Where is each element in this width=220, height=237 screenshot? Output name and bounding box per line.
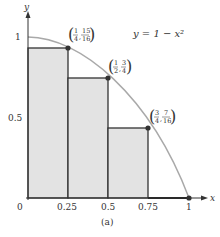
svg-text:): ) [89,25,95,44]
svg-text:,: , [79,33,81,41]
y-axis-label: y [23,2,30,12]
caption: (a) [101,217,113,227]
svg-text:): ) [126,57,132,76]
svg-text:7: 7 [164,109,168,117]
svg-text:3: 3 [155,109,159,117]
svg-text:,: , [119,65,121,73]
point-4 [186,195,191,200]
point-2 [105,75,110,80]
svg-text:1: 1 [114,59,118,67]
x-tick-0: 0 [17,202,23,212]
point-label-3: ( 3 4 , 7 16 ) [149,107,176,126]
y-tick-1: 1 [15,32,21,42]
point-label-1: ( 1 4 , 15 16 ) [68,25,95,44]
point-1 [65,45,70,50]
x-axis-arrow-icon [201,196,208,201]
point-label-2: ( 1 2 , 3 4 ) [108,57,132,76]
equation-label: y = 1 − x² [132,28,184,39]
svg-text:4: 4 [155,117,159,125]
rectangle-1 [28,48,68,198]
x-tick-0.75: 0.75 [138,202,158,212]
x-tick-0.25: 0.25 [57,202,77,212]
riemann-sum-chart: y x 1 0.5 0 0.25 0.5 0.75 1 ( 1 4 , 15 1… [0,0,220,237]
rectangle-3 [108,128,148,198]
svg-text:,: , [160,115,162,123]
svg-text:4: 4 [74,35,78,43]
x-tick-0.5: 0.5 [101,202,116,212]
x-tick-1: 1 [186,202,192,212]
svg-text:1: 1 [74,27,78,35]
svg-text:2: 2 [114,67,118,75]
rectangle-2 [68,78,108,198]
x-axis-label: x [210,193,215,203]
y-tick-0.5: 0.5 [8,113,23,123]
svg-text:): ) [170,107,176,126]
y-axis-arrow-icon [26,11,31,18]
point-3 [145,125,150,130]
